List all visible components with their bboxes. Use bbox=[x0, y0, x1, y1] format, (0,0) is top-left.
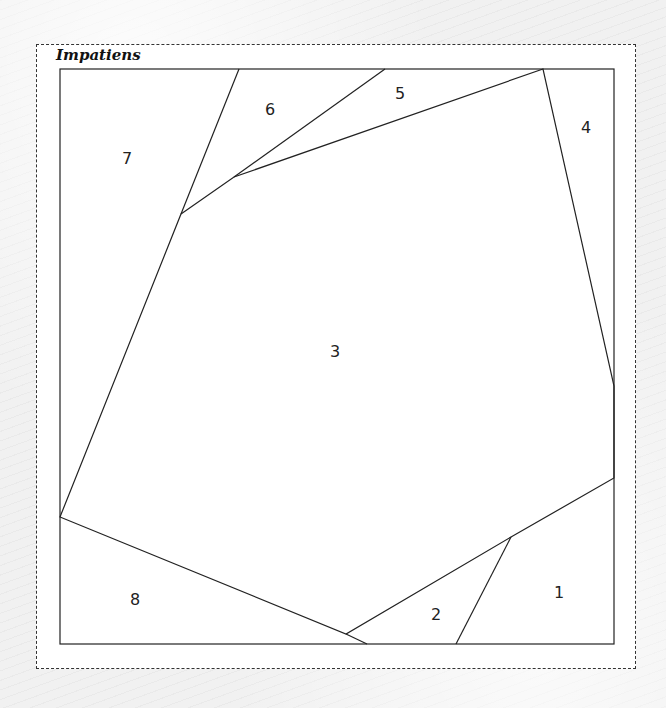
piece-label-8: 8 bbox=[130, 590, 140, 609]
seam-5-6 bbox=[234, 69, 385, 177]
seam-8-2 bbox=[346, 634, 367, 644]
piece-label-6: 6 bbox=[265, 100, 275, 119]
piece-label-5: 5 bbox=[395, 84, 405, 103]
piece-label-2: 2 bbox=[431, 605, 441, 624]
piece-label-7: 7 bbox=[122, 149, 132, 168]
piece-label-4: 4 bbox=[581, 118, 591, 137]
piece-label-1: 1 bbox=[554, 583, 564, 602]
piece-label-3: 3 bbox=[330, 342, 340, 361]
seam-6-7 bbox=[181, 69, 239, 214]
